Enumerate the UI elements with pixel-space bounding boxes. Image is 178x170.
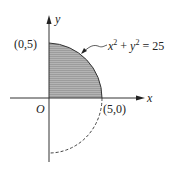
equation-leader — [82, 45, 107, 53]
circle-diagram: y x (0,5) (5,0) O x2 + y2 = 25 — [0, 0, 178, 170]
equation-label: x2 + y2 = 25 — [107, 38, 164, 53]
x-axis-arrow-icon — [136, 96, 145, 101]
origin-label: O — [36, 102, 45, 116]
y-axis-label: y — [54, 12, 61, 26]
leader-arrow-icon — [81, 48, 87, 54]
point-right-label: (5,0) — [103, 102, 126, 116]
circle-arc-dashed — [49, 98, 102, 153]
point-top-label: (0,5) — [14, 37, 37, 51]
x-axis-label: x — [146, 91, 153, 105]
diagram-canvas: y x (0,5) (5,0) O x2 + y2 = 25 — [0, 0, 178, 170]
y-axis-arrow-icon — [47, 15, 52, 24]
